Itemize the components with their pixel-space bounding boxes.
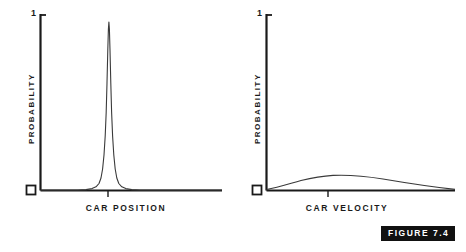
- y-axis-max-tick-label-position: 1: [31, 8, 36, 18]
- probability-curve-position: [41, 22, 223, 190]
- y-axis-label-velocity: PROBABILITY: [253, 73, 262, 144]
- car-velocity-plot: [233, 0, 466, 252]
- y-axis-label-position: PROBABILITY: [27, 73, 36, 144]
- x-axis-label-position: CAR POSITION: [30, 203, 222, 213]
- chart-panel-car-velocity: PROBABILITY 1 CAR VELOCITY: [233, 0, 466, 252]
- figure-number-badge: FIGURE 7.4: [381, 226, 455, 241]
- y-axis-max-tick-label-velocity: 1: [257, 8, 262, 18]
- origin-square-marker-velocity: [253, 186, 262, 195]
- figure-container: PROBABILITY 1 CAR POSITION PROBABILITY 1…: [0, 0, 466, 252]
- x-axis-label-velocity: CAR VELOCITY: [251, 203, 443, 213]
- chart-panel-car-position: PROBABILITY 1 CAR POSITION: [0, 0, 233, 252]
- origin-square-marker-position: [27, 186, 36, 195]
- probability-curve-velocity: [267, 175, 456, 189]
